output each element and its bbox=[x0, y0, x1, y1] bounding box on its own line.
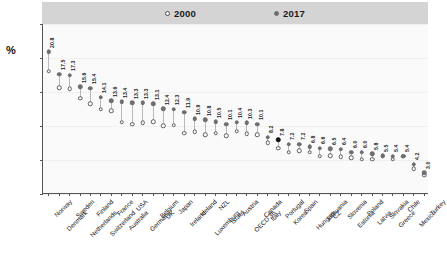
data-point-2017[interactable] bbox=[161, 106, 166, 111]
data-point-column[interactable]: 13.1 bbox=[153, 24, 154, 193]
data-point-2017[interactable] bbox=[46, 49, 51, 54]
data-point-2017[interactable] bbox=[245, 121, 250, 126]
data-point-column[interactable]: 7.8 bbox=[278, 24, 279, 193]
data-point-column[interactable]: 10.4 bbox=[236, 24, 237, 193]
data-point-column[interactable]: 6.4 bbox=[340, 24, 341, 193]
data-point-2017[interactable] bbox=[297, 142, 302, 147]
data-point-column[interactable]: 15.4 bbox=[90, 24, 91, 193]
data-point-2017[interactable] bbox=[193, 117, 198, 122]
data-point-2017[interactable] bbox=[380, 153, 385, 158]
data-point-column[interactable]: 13.6 bbox=[111, 24, 112, 193]
data-point-column[interactable]: 10.8 bbox=[205, 24, 206, 193]
data-point-2000[interactable] bbox=[318, 154, 323, 159]
data-point-2000[interactable] bbox=[224, 134, 229, 139]
data-point-2000[interactable] bbox=[307, 150, 312, 155]
data-point-2017[interactable] bbox=[401, 154, 406, 159]
data-point-2017[interactable] bbox=[99, 95, 104, 100]
data-point-2017[interactable] bbox=[234, 120, 239, 125]
data-point-column[interactable]: 17.3 bbox=[69, 24, 70, 193]
data-point-2000[interactable] bbox=[140, 121, 145, 126]
data-point-column[interactable]: 6.0 bbox=[351, 24, 352, 193]
data-point-column[interactable]: 5.4 bbox=[392, 24, 393, 193]
data-point-2017[interactable] bbox=[307, 145, 312, 150]
data-point-2000[interactable] bbox=[109, 108, 114, 113]
data-point-2000[interactable] bbox=[119, 120, 124, 125]
data-point-column[interactable]: 6.5 bbox=[330, 24, 331, 193]
data-point-2000[interactable] bbox=[266, 140, 271, 145]
data-point-2017[interactable] bbox=[391, 154, 396, 159]
data-point-column[interactable]: 10.9 bbox=[194, 24, 195, 193]
data-point-2000[interactable] bbox=[99, 107, 104, 112]
data-point-column[interactable]: 6.0 bbox=[361, 24, 362, 193]
data-point-column[interactable]: 5.4 bbox=[403, 24, 404, 193]
data-point-2017[interactable] bbox=[213, 119, 218, 124]
data-point-2000[interactable] bbox=[359, 157, 364, 162]
data-point-2017[interactable] bbox=[109, 98, 114, 103]
data-point-2000[interactable] bbox=[57, 85, 62, 90]
data-point-2017[interactable] bbox=[203, 117, 208, 122]
data-point-column[interactable]: 7.2 bbox=[288, 24, 289, 193]
data-point-column[interactable]: 10.1 bbox=[226, 24, 227, 193]
data-point-2017[interactable] bbox=[88, 86, 93, 91]
data-point-2000[interactable] bbox=[213, 131, 218, 136]
data-point-2017[interactable] bbox=[151, 102, 156, 107]
data-point-column[interactable]: 5.5 bbox=[382, 24, 383, 193]
data-point-column[interactable]: 14.1 bbox=[100, 24, 101, 193]
data-point-column[interactable]: 20.8 bbox=[48, 24, 49, 193]
data-point-2017[interactable] bbox=[57, 72, 62, 77]
data-point-column[interactable]: 7.2 bbox=[299, 24, 300, 193]
data-point-2000[interactable] bbox=[234, 129, 239, 134]
data-point-column[interactable]: 6.8 bbox=[309, 24, 310, 193]
data-point-column[interactable]: 15.6 bbox=[80, 24, 81, 193]
data-point-column[interactable]: 17.5 bbox=[59, 24, 60, 193]
data-point-2017[interactable] bbox=[412, 162, 417, 167]
data-point-2000[interactable] bbox=[255, 132, 260, 137]
data-point-column[interactable]: 10.3 bbox=[246, 24, 247, 193]
data-point-2000[interactable] bbox=[151, 119, 156, 124]
data-point-column[interactable]: 11.9 bbox=[184, 24, 185, 193]
data-point-2000[interactable] bbox=[286, 150, 291, 155]
data-point-2000[interactable] bbox=[67, 87, 72, 92]
data-point-column[interactable]: 3.0 bbox=[424, 24, 425, 193]
data-point-2000[interactable] bbox=[412, 166, 417, 171]
data-point-2000[interactable] bbox=[172, 123, 177, 128]
data-point-2000[interactable] bbox=[328, 153, 333, 158]
data-point-column[interactable]: 10.5 bbox=[215, 24, 216, 193]
data-point-column[interactable]: 12.4 bbox=[163, 24, 164, 193]
data-point-2017[interactable] bbox=[359, 150, 364, 155]
data-point-2000[interactable] bbox=[349, 155, 354, 160]
data-point-2000[interactable] bbox=[130, 122, 135, 127]
data-point-2017[interactable] bbox=[318, 146, 323, 151]
data-point-2017[interactable] bbox=[328, 147, 333, 152]
data-point-2017[interactable] bbox=[422, 170, 427, 175]
data-point-2017[interactable] bbox=[286, 142, 291, 147]
data-point-2017[interactable] bbox=[182, 110, 187, 115]
data-point-column[interactable]: 13.3 bbox=[132, 24, 133, 193]
data-point-2000[interactable] bbox=[339, 155, 344, 160]
data-point-2000[interactable] bbox=[88, 102, 93, 107]
data-point-2017[interactable] bbox=[339, 147, 344, 152]
data-point-2017[interactable] bbox=[130, 100, 135, 105]
data-point-column[interactable]: 5.8 bbox=[372, 24, 373, 193]
data-point-column[interactable]: 10.1 bbox=[257, 24, 258, 193]
data-point-2017[interactable] bbox=[224, 122, 229, 127]
data-point-2000[interactable] bbox=[245, 132, 250, 137]
data-point-2017[interactable] bbox=[349, 150, 354, 155]
data-point-2017[interactable] bbox=[255, 122, 260, 127]
data-point-2000[interactable] bbox=[193, 130, 198, 135]
data-point-2017[interactable] bbox=[276, 138, 281, 143]
data-point-2017[interactable] bbox=[78, 85, 83, 90]
data-point-2000[interactable] bbox=[276, 146, 281, 151]
data-point-column[interactable]: 8.2 bbox=[267, 24, 268, 193]
data-point-2000[interactable] bbox=[161, 123, 166, 128]
data-point-2000[interactable] bbox=[182, 131, 187, 136]
data-point-column[interactable]: 13.4 bbox=[121, 24, 122, 193]
data-point-column[interactable]: 12.3 bbox=[173, 24, 174, 193]
data-point-2017[interactable] bbox=[67, 73, 72, 78]
data-point-column[interactable]: 4.2 bbox=[413, 24, 414, 193]
data-point-2000[interactable] bbox=[370, 157, 375, 162]
data-point-2017[interactable] bbox=[119, 100, 124, 105]
data-point-column[interactable]: 6.6 bbox=[319, 24, 320, 193]
data-point-2017[interactable] bbox=[266, 135, 271, 140]
data-point-column[interactable]: 13.3 bbox=[142, 24, 143, 193]
